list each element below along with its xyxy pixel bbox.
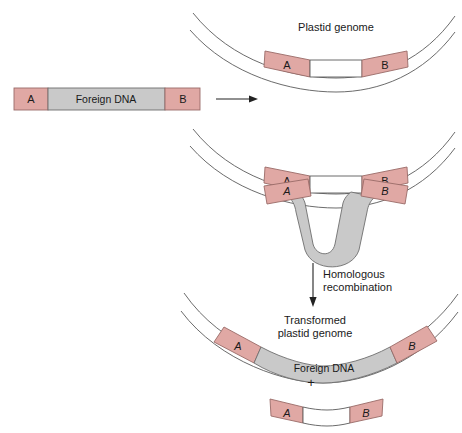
looped-foreign-dna — [287, 192, 375, 267]
arrow-homologous-recombination: Homologous recombination — [309, 263, 392, 307]
genome-top-spacer — [310, 60, 362, 77]
excised-block-b-label: B — [362, 407, 369, 419]
construct-block-a-label: A — [27, 93, 35, 105]
genome-top-block-b: B — [362, 51, 408, 77]
genome-top-block-a: A — [264, 51, 310, 77]
genome-top-block-a-label: A — [283, 59, 291, 71]
plastid-genome-title: Plastid genome — [298, 21, 374, 33]
construct-block-b-label: B — [179, 93, 186, 105]
recombination-label-line2: recombination — [323, 281, 392, 293]
transformed-block-a: A — [214, 327, 261, 363]
excised-block-b: B — [350, 399, 383, 423]
arrow-to-pairing — [216, 95, 258, 102]
excised-block-a: A — [270, 399, 303, 423]
transformed-title-line2: plastid genome — [278, 327, 353, 339]
transformed-block-b-label: B — [408, 340, 415, 352]
plastid-transformation-diagram: A B Plastid genome A Foreign DNA B A — [0, 0, 462, 433]
pairing-construct-block-b-label: B — [381, 185, 388, 197]
stage-plastid-genome: A B Plastid genome — [190, 13, 455, 92]
excised-block-a-label: A — [282, 407, 290, 419]
stage-transformed-genome: A Foreign DNA B Transformed plastid geno… — [181, 293, 458, 383]
stage-foreign-dna-construct: A Foreign DNA B — [14, 88, 258, 110]
recombination-label-line1: Homologous — [323, 268, 385, 280]
genome-top-block-b-label: B — [381, 59, 388, 71]
pairing-construct-block-a-label: A — [282, 185, 290, 197]
stage-homologous-pairing: A B A B — [190, 129, 455, 267]
diagram-canvas: A B Plastid genome A Foreign DNA B A — [0, 0, 462, 433]
plus-sign: + — [307, 375, 315, 390]
transformed-block-b: B — [390, 326, 437, 363]
transformed-title-line1: Transformed — [284, 314, 346, 326]
stage-excised-fragment: A B — [270, 399, 383, 426]
transformed-foreign-dna-label: Foreign DNA — [294, 362, 355, 374]
pairing-genome-spacer — [310, 176, 362, 193]
excised-spacer — [303, 407, 350, 426]
transformed-block-a-label: A — [233, 340, 241, 352]
construct-foreign-dna-label: Foreign DNA — [76, 93, 137, 105]
